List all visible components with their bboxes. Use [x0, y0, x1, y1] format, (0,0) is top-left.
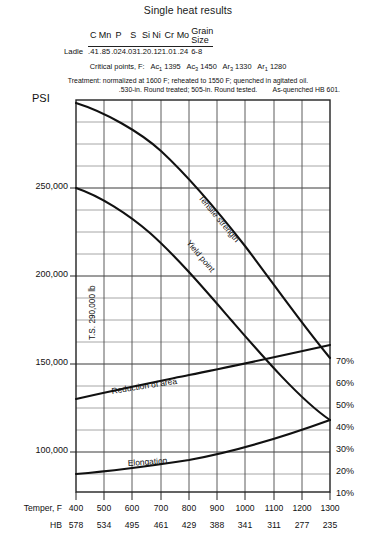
x-axis-ticks: [76, 492, 330, 500]
y-axis-ticks: [70, 188, 76, 452]
y-axis-note-ts: T.S. 290,000 lb: [88, 285, 97, 340]
x-axis-hb-534: 534: [90, 520, 118, 530]
vertical-gridlines: [104, 100, 302, 492]
x-axis-temper-1300: 1300: [314, 503, 346, 513]
y-axis-right-label-20: 20%: [336, 466, 354, 476]
y-axis-label-150000: 150,000: [0, 357, 68, 367]
y-axis-label-200000: 200,000: [0, 269, 68, 279]
x-axis-hb-429: 429: [175, 520, 203, 530]
y-axis-right-label-10: 10%: [336, 488, 354, 498]
x-axis-temper-500: 500: [90, 503, 118, 513]
y-axis-right-label-60: 60%: [336, 378, 354, 388]
x-axis-row-label-temper: Temper, F: [0, 503, 62, 513]
x-axis-hb-388: 388: [203, 520, 231, 530]
curve-label-elongation: Elongation: [127, 455, 168, 468]
x-axis-hb-461: 461: [147, 520, 175, 530]
x-axis-hb-341: 341: [229, 520, 261, 530]
x-axis-temper-800: 800: [175, 503, 203, 513]
x-axis-temper-900: 900: [203, 503, 231, 513]
y-axis-right-label-40: 40%: [336, 422, 354, 432]
y-axis-right-label-50: 50%: [336, 400, 354, 410]
curve-label-reduction-of-area: Reduction of area: [111, 376, 178, 396]
x-axis-row-label-hb: HB: [0, 520, 62, 530]
y-axis-right-label-70: 70%: [336, 356, 354, 366]
y-axis-right-label-30: 30%: [336, 444, 354, 454]
x-axis-hb-495: 495: [118, 520, 146, 530]
horizontal-gridlines: [76, 122, 330, 474]
x-axis-hb-235: 235: [314, 520, 346, 530]
y-axis-title-psi: PSI: [32, 92, 50, 104]
chart-page: Single heat results C Mn P S Si Ni Cr Mo…: [0, 0, 376, 549]
x-axis-temper-700: 700: [147, 503, 175, 513]
curve-elongation: [76, 420, 330, 474]
curve-label-tensile-strength: Tensile strength: [196, 193, 242, 245]
x-axis-temper-400: 400: [62, 503, 90, 513]
x-axis-hb-578: 578: [62, 520, 90, 530]
x-axis-temper-1000: 1000: [229, 503, 261, 513]
y-axis-label-100000: 100,000: [0, 445, 68, 455]
y-axis-label-250000: 250,000: [0, 181, 68, 191]
x-axis-temper-600: 600: [118, 503, 146, 513]
